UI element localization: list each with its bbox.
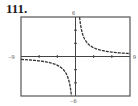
right-branch-curve: [80, 17, 130, 53]
left-branch-curve: [21, 59, 71, 95]
graph-window: [0, 0, 138, 106]
